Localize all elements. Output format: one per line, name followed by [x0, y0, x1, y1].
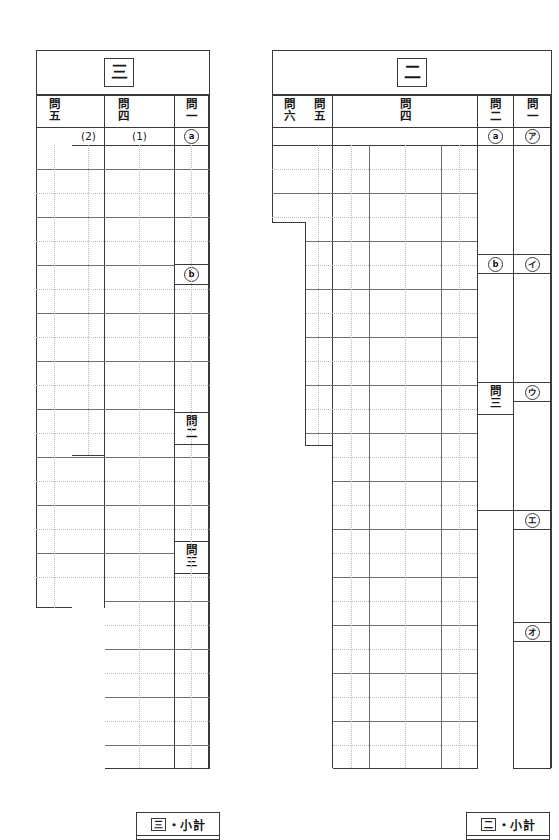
header-q2: 問 二 [478, 95, 513, 127]
grid-guide [36, 289, 210, 290]
header-q5-char2: 五 [49, 111, 60, 123]
grid-rule [36, 553, 174, 554]
inline-q3-char2: 三 [490, 398, 501, 410]
sep-u-top [514, 382, 551, 383]
mark-i-kana-glyph: イ [525, 257, 540, 272]
header-q2-char2: 二 [490, 111, 501, 123]
header-q1: 問 一 [514, 95, 551, 127]
mark-a: a [174, 127, 209, 145]
header-q1: 問 一 [174, 95, 209, 127]
col-q5-q4-divider [332, 95, 333, 445]
header-q5: 問 五 [306, 95, 332, 127]
grid-guide [105, 625, 210, 626]
mark-b: b [478, 255, 513, 273]
grid-guide-v [88, 145, 89, 455]
col-q2-bottom [478, 510, 514, 511]
grid-guide [36, 241, 210, 242]
sep-e-bottom [514, 529, 551, 530]
grid-rule [306, 241, 477, 242]
mark-o-kana: オ [514, 623, 551, 641]
footer-three-caption: 三・小計 [137, 813, 219, 836]
grid-guide [105, 673, 210, 674]
grid-guide [306, 409, 477, 410]
header-q1-char2: 一 [186, 111, 197, 123]
footer-three-text: ・小計 [168, 816, 206, 833]
col-q4-2-right-step [104, 455, 105, 608]
mark-u-kana: ウ [514, 383, 551, 401]
footer-three: 三・小計 [136, 812, 220, 840]
mark-u-kana-glyph: ウ [525, 385, 540, 400]
grid-guide [306, 361, 477, 362]
grid-guide [36, 433, 174, 434]
sep-b-top [478, 254, 513, 255]
grid-guide-v [405, 145, 406, 768]
grid-rule [105, 601, 210, 602]
grid-rule [306, 433, 477, 434]
header-q4-char2: 四 [400, 111, 411, 123]
header-q6: 問 六 [272, 95, 306, 127]
grid-rule [272, 193, 477, 194]
sublabel-q4-2: (2) [72, 127, 105, 145]
col-q1-bottom [513, 768, 551, 769]
section-two-sublabel-bottom [272, 145, 552, 146]
grid-guide-v [139, 145, 140, 768]
grid-rule [306, 385, 477, 386]
header-q4: 問 四 [333, 95, 477, 127]
sep-e-top [514, 510, 551, 511]
col-q4-2-bottom [72, 455, 105, 456]
grid-rule [306, 289, 477, 290]
header-q4-char2: 四 [118, 111, 129, 123]
grid-rule [36, 505, 210, 506]
section-two-right-edge [550, 95, 551, 768]
sep-q3-bottom [478, 414, 513, 415]
section-three-bottom [105, 768, 210, 769]
header-q4: 問 四 [72, 95, 174, 127]
grid-guide [36, 337, 210, 338]
grid-rule-v [441, 145, 442, 768]
grid-rule [105, 697, 210, 698]
mark-e-kana-glyph: エ [525, 513, 540, 528]
grid-guide [306, 313, 477, 314]
sep-o-bottom [514, 641, 551, 642]
mark-a-glyph: a [184, 129, 199, 144]
grid-rule-v [369, 145, 370, 768]
col-q6-right-step [305, 223, 306, 445]
mark-e-kana: エ [514, 511, 551, 529]
grid-rule [36, 169, 210, 170]
col-q5-right-step [332, 445, 333, 768]
grid-guide [306, 265, 477, 266]
grid-rule [36, 265, 174, 266]
inline-label-q3: 問 三 [478, 383, 513, 413]
grid-guide [272, 169, 477, 170]
sep-i-bottom [514, 273, 551, 274]
mark-a: a [478, 127, 513, 145]
sep-i-top [514, 254, 551, 255]
mark-a-kana-glyph: ア [525, 129, 540, 144]
grid-rule [36, 217, 210, 218]
footer-two-caption: 二・小計 [467, 813, 549, 836]
mark-b-glyph: b [488, 257, 503, 272]
grid-guide [272, 217, 477, 218]
mark-a-glyph: a [488, 129, 503, 144]
footer-two-text: ・小計 [498, 816, 536, 833]
grid-rule [105, 649, 210, 650]
footer-two: 二・小計 [466, 812, 550, 840]
header-q5: 問 五 [36, 95, 72, 127]
section-three-title-plaque: 三 [104, 58, 134, 87]
grid-guide-v [318, 145, 319, 445]
grid-guide-v [351, 145, 352, 768]
mark-a-kana: ア [514, 127, 551, 145]
footer-three-symbol: 三 [151, 818, 166, 831]
grid-guide [36, 385, 210, 386]
sublabel-q4-1: (1) [105, 127, 174, 145]
grid-rule [36, 313, 210, 314]
sep-o-top [514, 622, 551, 623]
col-q4-divider [104, 95, 105, 455]
col-q1-left-divider [513, 95, 514, 510]
footer-two-symbol: 二 [481, 818, 496, 831]
grid-rule [306, 337, 477, 338]
grid-rule [36, 457, 210, 458]
answer-sheet: 三 問 五 問 四 問 一 (2) [0, 0, 559, 840]
mark-i-kana: イ [514, 255, 551, 273]
header-q5-char2: 五 [314, 111, 325, 123]
